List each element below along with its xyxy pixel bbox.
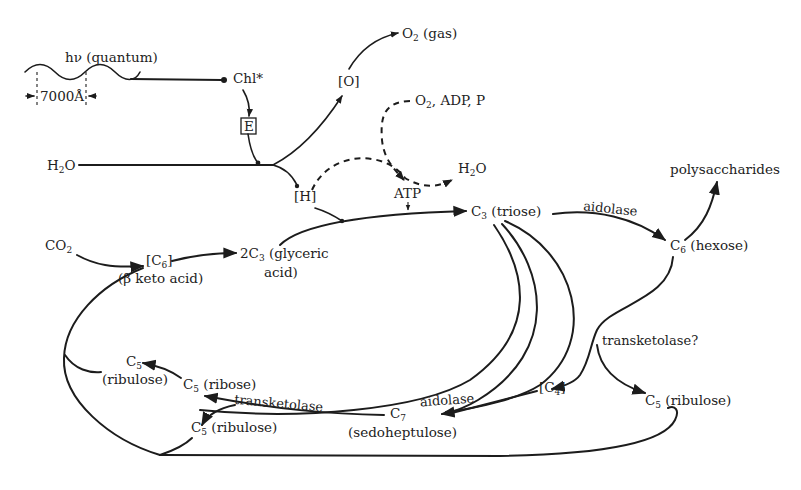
enzyme-aldolase-top: aidolase — [583, 198, 639, 219]
svg-text:C5 (ribose): C5 (ribose) — [183, 376, 256, 394]
light-label: hν (quantum) — [65, 49, 158, 65]
node-water-out: H2O — [458, 160, 487, 178]
edge-ribulose-bottom-return — [160, 438, 192, 455]
svg-text:(sedoheptulose): (sedoheptulose) — [348, 424, 457, 440]
svg-text:E: E — [244, 118, 254, 134]
edge-triose-hexose — [553, 212, 665, 240]
photosynthesis-diagram: 7000Å hν (quantum) Chl* E H2O [O] O2 (ga… — [0, 0, 801, 490]
node-co2: CO2 — [45, 237, 72, 255]
node-c7: C7 (sedoheptulose) — [348, 405, 457, 440]
svg-text:C7: C7 — [390, 405, 406, 423]
node-c5-ribulose-top: C5 (ribulose) — [102, 353, 168, 387]
node-e: E — [241, 118, 256, 134]
svg-text:C5: C5 — [126, 353, 142, 371]
wavelength-label: 7000Å — [40, 88, 84, 104]
edge-return-loop-outer — [64, 268, 160, 455]
edge-hexose-c4 — [552, 257, 673, 389]
edge-ribulose-top-return — [65, 355, 101, 372]
svg-text:2C3 (glyceric: 2C3 (glyceric — [240, 245, 329, 263]
edge-hexose-polysaccharides — [685, 182, 717, 240]
edge-split-o — [273, 96, 342, 165]
node-water-in: H2O — [47, 157, 76, 175]
enzyme-transketolase-left: transketolase — [234, 392, 324, 415]
node-atp: ATP — [393, 185, 421, 201]
edge-hexose-c5-ribulose — [597, 345, 645, 393]
svg-text:O2, ADP, P: O2, ADP, P — [415, 92, 485, 110]
node-polysaccharides: polysaccharides — [670, 161, 780, 177]
svg-text:C6 (hexose): C6 (hexose) — [670, 237, 748, 255]
svg-text:[C6]: [C6] — [146, 252, 173, 270]
node-chl: Chl* — [233, 70, 263, 86]
wave-icon — [25, 65, 140, 80]
edge-light-chl — [131, 79, 222, 80]
svg-text:H2O: H2O — [458, 160, 487, 178]
edge-o-o2gas — [349, 33, 398, 69]
edge-o2adp-atp — [382, 101, 410, 180]
node-c5-ribose: C5 (ribose) — [183, 376, 256, 394]
node-h: [H] — [294, 188, 316, 204]
svg-text:C5 (ribulose): C5 (ribulose) — [645, 392, 731, 410]
edge-co2-c6 — [77, 255, 143, 267]
edge-triose-c7 — [442, 224, 537, 414]
node-glyceric: 2C3 (glyceric acid) — [240, 245, 329, 280]
node-o: [O] — [338, 73, 360, 89]
edge-h-water-out — [312, 158, 452, 190]
svg-text:C3 (triose): C3 (triose) — [471, 203, 541, 221]
edge-h-main — [315, 208, 342, 221]
svg-text:acid): acid) — [264, 264, 298, 280]
edge-dot — [221, 77, 227, 83]
node-c5-ribulose-right: C5 (ribulose) — [645, 392, 731, 410]
svg-text:CO2: CO2 — [45, 237, 72, 255]
node-hexose: C6 (hexose) — [670, 237, 748, 255]
node-o2-gas: O2 (gas) — [402, 25, 457, 43]
svg-text:H2O: H2O — [47, 157, 76, 175]
edge-c6-glyceric — [172, 253, 236, 261]
svg-text:(ribulose): (ribulose) — [102, 371, 168, 387]
edge-chl-e — [243, 90, 249, 116]
node-o2-adp-p: O2, ADP, P — [415, 92, 485, 110]
enzyme-transketolase-right: transketolase? — [602, 333, 698, 348]
svg-text:O2 (gas): O2 (gas) — [402, 25, 457, 43]
edge-e-split — [248, 134, 258, 163]
node-triose: C3 (triose) — [471, 203, 541, 221]
edge-glyceric-triose — [280, 211, 466, 245]
edge-split-h — [273, 165, 297, 185]
